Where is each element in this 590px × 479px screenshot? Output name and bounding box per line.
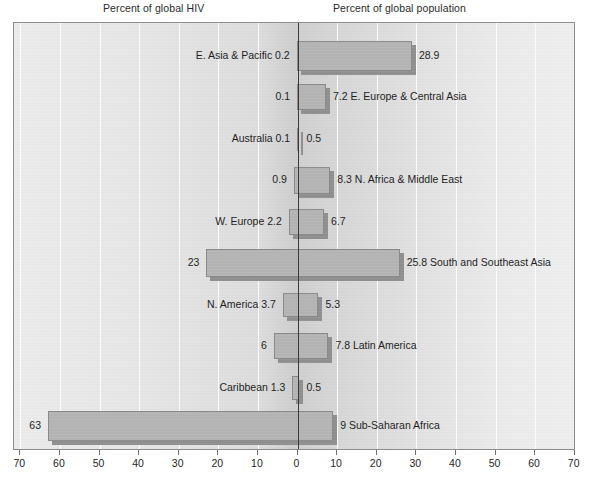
axis-tick <box>495 450 496 455</box>
gridline <box>60 23 61 449</box>
gridline <box>337 23 338 449</box>
row-right-label: 6.7 <box>331 216 346 227</box>
row-right-label: 5.3 <box>325 299 340 310</box>
plot-area <box>13 22 575 450</box>
gridline <box>416 23 417 449</box>
bar-shadow <box>301 132 303 155</box>
axis-tick-label: 30 <box>409 457 421 469</box>
gridline <box>496 23 497 449</box>
axis-tick <box>59 450 60 455</box>
axis-tick-label: 60 <box>53 457 65 469</box>
row-right-label: 7.2 E. Europe & Central Asia <box>333 91 467 102</box>
axis-tick <box>534 450 535 455</box>
gridline <box>456 23 457 449</box>
gridline <box>139 23 140 449</box>
axis-tick <box>19 450 20 455</box>
gridline <box>179 23 180 449</box>
left-axis-caption: Percent of global HIV <box>103 2 204 14</box>
axis-tick-label: 50 <box>93 457 105 469</box>
row-right-label: 7.8 Latin America <box>335 340 416 351</box>
row-left-label: 23 <box>188 257 200 268</box>
axis-tick <box>574 450 575 455</box>
bar-w-europe[interactable] <box>289 209 324 235</box>
row-right-label: 28.9 <box>419 50 439 61</box>
axis-tick-label: 60 <box>528 457 540 469</box>
axis-tick <box>415 450 416 455</box>
row-right-label: 0.5 <box>306 382 321 393</box>
row-left-label: Australia 0.1 <box>232 133 290 144</box>
axis-tick-label: 10 <box>251 457 263 469</box>
axis-tick <box>99 450 100 455</box>
row-left-label: Caribbean 1.3 <box>219 382 285 393</box>
row-left-label: E. Asia & Pacific 0.2 <box>196 50 290 61</box>
gridline <box>377 23 378 449</box>
axis-tick-label: 70 <box>568 457 580 469</box>
bar-n-america[interactable] <box>283 293 319 317</box>
row-right-label: 9 Sub-Saharan Africa <box>340 420 440 431</box>
axis-tick-label: 30 <box>172 457 184 469</box>
axis-tick-label: 40 <box>449 457 461 469</box>
axis-tick-label: 0 <box>294 457 300 469</box>
bar-latin-america[interactable] <box>274 333 329 359</box>
axis-tick-label: 50 <box>489 457 501 469</box>
row-left-label: 0.1 <box>276 91 291 102</box>
gridline <box>20 23 21 449</box>
zero-line <box>298 23 299 449</box>
gridline <box>535 23 536 449</box>
chart-page: Percent of global HIV Percent of global … <box>0 0 590 479</box>
row-left-label: N. America 3.7 <box>207 299 276 310</box>
bar-n-africa-middle-east[interactable] <box>294 167 330 194</box>
axis-tick <box>138 450 139 455</box>
bar-e-europe-central-asia[interactable] <box>297 84 326 110</box>
axis-tick-label: 20 <box>370 457 382 469</box>
bar-sub-saharan-africa[interactable] <box>48 411 333 441</box>
row-right-label: 8.3 N. Africa & Middle East <box>337 174 462 185</box>
row-right-label: 0.5 <box>306 133 321 144</box>
axis-tick <box>257 450 258 455</box>
axis-tick <box>297 450 298 455</box>
row-left-label: 63 <box>29 420 41 431</box>
axis-tick-label: 40 <box>132 457 144 469</box>
gridline <box>100 23 101 449</box>
axis-tick-label: 20 <box>211 457 223 469</box>
row-left-label: 6 <box>261 340 267 351</box>
bar-e-asia-pacific[interactable] <box>297 41 412 71</box>
row-left-label: 0.9 <box>272 174 287 185</box>
right-axis-caption: Percent of global population <box>333 2 466 14</box>
axis-tick <box>178 450 179 455</box>
row-left-label: W. Europe 2.2 <box>215 216 282 227</box>
axis-tick <box>376 450 377 455</box>
x-axis: 70605040302010010203040506070 <box>13 450 575 479</box>
bar-south-and-southeast-asia[interactable] <box>206 249 399 277</box>
axis-tick <box>217 450 218 455</box>
axis-tick <box>336 450 337 455</box>
axis-tick <box>455 450 456 455</box>
row-right-label: 25.8 South and Southeast Asia <box>407 257 551 268</box>
axis-tick-label: 70 <box>13 457 25 469</box>
axis-tick-label: 10 <box>330 457 342 469</box>
